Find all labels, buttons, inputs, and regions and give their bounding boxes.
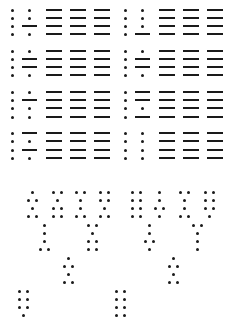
row-line [159,33,175,35]
row-line [207,157,223,159]
cell-dot [28,157,31,160]
braille-dot [43,224,46,227]
row-line [46,107,62,109]
braille-dot [176,265,179,268]
braille-dot [115,314,118,317]
cell-dot [28,74,31,77]
braille-dot [168,265,171,268]
row-line [94,107,110,109]
row-line [183,17,199,19]
cell-dot [11,99,14,102]
braille-dot [18,298,21,301]
row-line [159,157,175,159]
braille-dot [43,232,46,235]
braille-dot [107,191,110,194]
cell-dot [124,149,127,152]
braille-dot [31,207,34,210]
row-line [207,33,223,35]
braille-dot [208,215,211,218]
cell-dot [11,58,14,61]
braille-dot [35,199,38,202]
braille-dot [162,207,165,210]
row-line [207,132,223,134]
row-line [46,157,62,159]
braille-dot [52,207,55,210]
braille-dot [63,265,66,268]
cell-dot [141,157,144,160]
braille-dot [99,199,102,202]
braille-dot [123,298,126,301]
braille-dot [154,207,157,210]
braille-dot [172,273,175,276]
braille-dot [204,207,207,210]
row-line [70,99,86,101]
row-line [207,66,223,68]
row-line [183,116,199,118]
braille-dot [103,207,106,210]
row-line [46,132,62,134]
cell-dot [141,149,144,152]
row-line [46,74,62,76]
braille-dot [183,207,186,210]
braille-dot [67,257,70,260]
row-line [46,99,62,101]
row-line [70,140,86,142]
braille-dot [56,199,59,202]
row-line [183,50,199,52]
braille-dot [131,199,134,202]
braille-dot [200,224,203,227]
row-line [70,149,86,151]
row-line [183,157,199,159]
cell-line [22,149,37,151]
row-line [207,149,223,151]
braille-dot [71,281,74,284]
cell-line [135,91,150,93]
row-line [207,74,223,76]
row-line [207,17,223,19]
row-line [183,74,199,76]
row-line [159,99,175,101]
row-line [94,91,110,93]
row-line [46,66,62,68]
braille-dot [79,207,82,210]
row-line [159,25,175,27]
braille-dot [87,248,90,251]
cell-dot [124,9,127,12]
braille-dot [27,215,30,218]
braille-dot [204,191,207,194]
row-line [183,91,199,93]
row-line [70,91,86,93]
cell-line [22,58,37,60]
cell-dot [124,99,127,102]
row-line [207,116,223,118]
braille-dot [43,240,46,243]
row-line [183,149,199,151]
row-line [94,116,110,118]
braille-dot [158,199,161,202]
row-line [207,91,223,93]
cell-dot [124,157,127,160]
row-line [207,9,223,11]
braille-dot [26,290,29,293]
braille-dot [168,281,171,284]
braille-dot [99,215,102,218]
braille-dot [123,290,126,293]
cell-dot [28,116,31,119]
cell-dot [11,107,14,110]
braille-dot [60,215,63,218]
braille-dot [95,224,98,227]
cell-dot [11,149,14,152]
braille-dot [139,215,142,218]
cell-dot [28,107,31,110]
row-line [183,9,199,11]
dot-pattern-canvas [0,0,233,318]
braille-dot [158,215,161,218]
row-line [70,107,86,109]
row-line [46,50,62,52]
row-line [94,74,110,76]
cell-line [22,99,37,101]
cell-dot [141,25,144,28]
row-line [159,66,175,68]
cell-line [135,58,150,60]
row-line [159,91,175,93]
